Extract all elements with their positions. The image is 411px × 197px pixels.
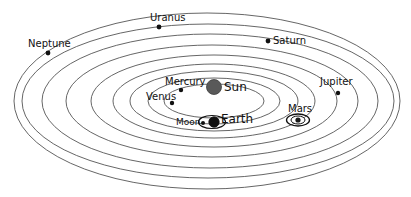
orbit-group xyxy=(14,13,400,189)
mars-body xyxy=(295,117,300,122)
orbit-neptune xyxy=(22,24,394,178)
label-jupiter: Jupiter xyxy=(320,77,353,87)
label-neptune: Neptune xyxy=(28,39,71,49)
label-venus: Venus xyxy=(146,92,176,102)
jupiter-dot xyxy=(336,91,340,95)
label-mars: Mars xyxy=(288,104,312,114)
earth-body xyxy=(209,117,219,127)
saturn-dot xyxy=(266,39,271,44)
label-saturn: Saturn xyxy=(273,36,306,46)
label-moon: Moon xyxy=(176,118,200,127)
sun-body xyxy=(207,80,222,95)
neptune-dot xyxy=(46,51,51,56)
label-sun: Sun xyxy=(224,81,247,93)
orbit-uranus xyxy=(42,34,378,168)
solar-system-diagram: Sun Mercury Venus Earth Moon Mars Jupite… xyxy=(0,0,411,197)
orbit-jupiter xyxy=(91,55,337,147)
orbit-outermost xyxy=(14,13,400,189)
uranus-dot xyxy=(157,25,162,30)
label-mercury: Mercury xyxy=(165,77,206,87)
label-uranus: Uranus xyxy=(150,13,185,23)
mercury-dot xyxy=(179,88,183,92)
label-earth: Earth xyxy=(221,113,253,125)
orbit-saturn xyxy=(66,45,358,157)
solar-system-canvas xyxy=(0,0,411,197)
moon-dot xyxy=(201,121,205,125)
